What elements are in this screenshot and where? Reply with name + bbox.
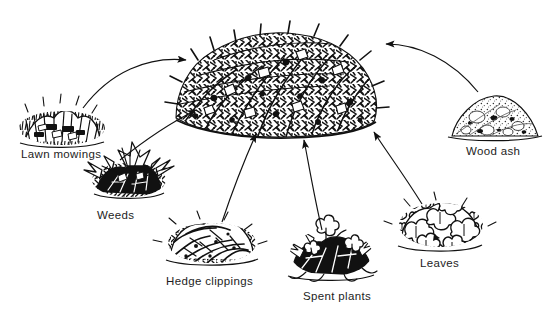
diagram-canvas bbox=[0, 0, 548, 323]
compost-diagram: Lawn mowings Weeds Hedge clippings Spent… bbox=[0, 0, 548, 323]
label-leaves: Leaves bbox=[420, 258, 459, 270]
label-weeds: Weeds bbox=[97, 210, 134, 222]
label-wood-ash: Wood ash bbox=[466, 146, 520, 158]
label-lawn-mowings: Lawn mowings bbox=[21, 149, 101, 161]
label-spent-plants: Spent plants bbox=[303, 291, 371, 303]
label-hedge-clippings: Hedge clippings bbox=[166, 276, 253, 288]
